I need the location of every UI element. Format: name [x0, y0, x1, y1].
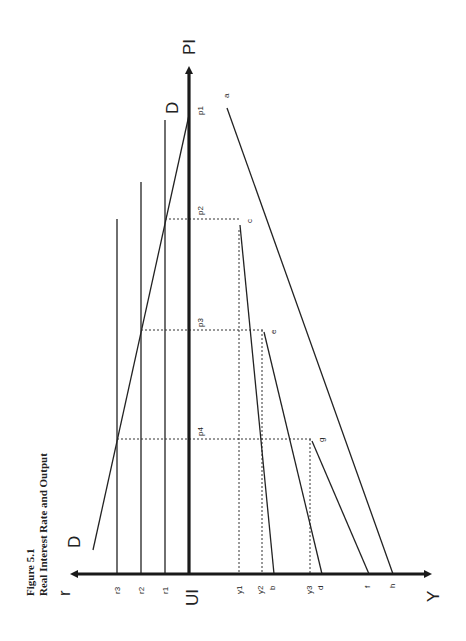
tick-p1: p1 — [196, 106, 205, 115]
tick-y2: y2 — [256, 585, 265, 594]
figure-caption: Real Interest Rate and Output — [37, 453, 49, 596]
y-axis-label: Y — [424, 591, 443, 602]
pi-axis-label: PI — [180, 39, 199, 55]
point-c-label: c — [245, 219, 254, 223]
tick-p2: p2 — [196, 206, 205, 215]
diagram-canvas: Figure 5.1 Real Interest Rate and Output… — [0, 0, 466, 641]
tick-d: d — [316, 586, 325, 590]
tick-p3: p3 — [196, 318, 205, 327]
tick-h: h — [388, 584, 397, 588]
curve-e-d — [264, 332, 322, 574]
curve-c-b — [240, 225, 274, 574]
origin-label: UI — [183, 589, 202, 606]
tick-r2: r2 — [137, 586, 146, 594]
r-axis-label: r — [55, 590, 74, 596]
curve-g-f — [312, 441, 369, 574]
demand-label-bottom: D — [65, 536, 84, 548]
tick-r3: r3 — [113, 586, 122, 594]
tick-b: b — [268, 585, 277, 590]
tick-y3: y3 — [305, 585, 314, 594]
point-e-label: e — [269, 329, 278, 334]
figure-title: Figure 5.1 Real Interest Rate and Output — [24, 453, 49, 596]
demand-label-top: D — [163, 102, 182, 114]
tick-y1: y1 — [235, 585, 244, 594]
tick-f: f — [363, 585, 372, 588]
tick-p4: p4 — [196, 427, 205, 436]
tick-r1: r1 — [161, 586, 170, 594]
point-a-label: a — [222, 93, 231, 98]
point-g-label: g — [317, 438, 326, 442]
figure-number: Figure 5.1 — [24, 549, 36, 596]
